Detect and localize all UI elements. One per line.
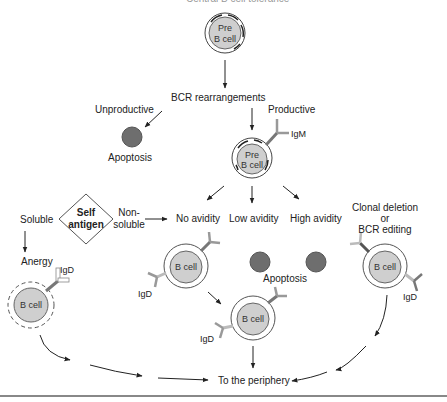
arrow-edited-curve-1: [375, 295, 387, 336]
igd-label: IgD: [60, 264, 74, 276]
arrow-no-avidity: [207, 186, 224, 200]
arrow-anergy-curve-2: [90, 365, 142, 376]
no-avidity-label: No avidity: [176, 213, 220, 225]
cell-label: B cell: [166, 262, 206, 272]
cell-label: B cell: [232, 160, 272, 170]
low-avidity-label: Low avidity: [229, 213, 278, 225]
apoptosis-label: Apoptosis: [108, 152, 152, 164]
apoptosis-label: Apoptosis: [263, 273, 307, 285]
bcr-rearrangements-label: BCR rearrangements: [171, 92, 265, 104]
self-antigen-label: Self: [66, 207, 106, 219]
apoptotic-cell-icon: [306, 252, 326, 272]
anergy-label: Anergy: [21, 256, 53, 268]
arrow-edited-periphery: [292, 372, 327, 381]
bcr-editing-label: BCR editing: [345, 224, 425, 236]
unproductive-label: Unproductive: [95, 104, 154, 116]
no-avidity-b-cell: [148, 232, 220, 288]
non-soluble-label: Non-: [110, 207, 148, 219]
arrow-maturation: [208, 292, 221, 304]
productive-label: Productive: [268, 104, 315, 116]
cell-label: B cell: [365, 262, 405, 272]
arrow-edited-curve-2: [336, 346, 366, 370]
diagram-title: Central B cell tolerance: [186, 0, 289, 5]
diagram-canvas: [0, 0, 447, 402]
igd-label: IgD: [403, 291, 417, 303]
igd-label: IgD: [138, 288, 152, 300]
cell-label: Pre: [232, 150, 272, 160]
arrow-anergy-periphery: [158, 378, 208, 380]
cell-label: Pre: [205, 23, 245, 33]
anergic-b-cell: [8, 268, 69, 328]
apoptotic-cell-icon: [122, 127, 142, 147]
apoptotic-cell-icon: [250, 252, 270, 272]
igd-label: IgD: [200, 333, 214, 345]
periphery-label: To the periphery: [218, 375, 290, 387]
cell-label: B cell: [233, 314, 273, 324]
cell-label: B cell: [11, 300, 51, 310]
arrow-anergy-curve-1: [40, 335, 70, 360]
cell-label: B cell: [205, 34, 245, 44]
high-avidity-label: High avidity: [290, 213, 342, 225]
soluble-label: Soluble: [20, 214, 53, 226]
bottom-divider: [0, 395, 447, 397]
self-antigen-label: antigen: [61, 219, 111, 231]
igm-label: IgM: [291, 128, 306, 140]
pre-b-cell-top: [205, 13, 245, 53]
non-soluble-label: soluble: [110, 219, 148, 231]
arrow-high-avidity: [283, 186, 299, 199]
